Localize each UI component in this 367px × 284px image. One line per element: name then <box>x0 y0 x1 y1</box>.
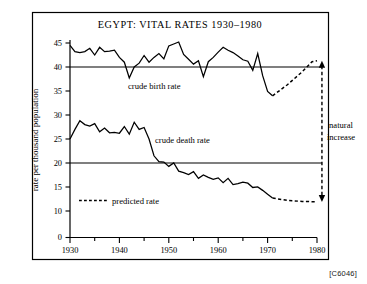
data-curves-group <box>70 42 317 202</box>
vital-rates-line-chart: EGYPT: VITAL RATES 1930–1980 rate per th… <box>0 0 367 284</box>
y-tick-label-10: 10 <box>54 207 62 216</box>
natural-increase-arrowhead-bottom <box>319 195 325 202</box>
natural-increase-marker <box>319 61 325 202</box>
y-tick-label-20: 20 <box>54 159 62 168</box>
predicted-rate-label: predicted rate <box>112 196 159 206</box>
annotations-group: crude birth rate crude death rate predic… <box>79 81 355 206</box>
crude-death-rate-label: crude death rate <box>155 135 210 145</box>
natural-increase-label-line2: increase <box>327 132 355 142</box>
x-tick-label-1950: 1950 <box>160 246 177 255</box>
predicted-death-rate-curve <box>273 198 317 202</box>
predicted-birth-rate-curve <box>273 61 317 96</box>
x-tick-label-1980: 1980 <box>309 246 326 255</box>
natural-increase-label-line1: natural <box>329 120 353 130</box>
x-tick-label-1970: 1970 <box>259 246 276 255</box>
crude-death-rate-curve <box>70 121 273 198</box>
y-tick-label-40: 40 <box>54 63 62 72</box>
y-axis-label: rate per thousand population <box>30 88 40 191</box>
x-tick-label-1960: 1960 <box>210 246 227 255</box>
y-ticks-group: 45 40 35 30 25 20 15 10 0 <box>54 39 70 242</box>
y-tick-label-30: 30 <box>54 111 62 120</box>
crude-birth-rate-label: crude birth rate <box>128 81 181 91</box>
y-tick-label-35: 35 <box>54 87 62 96</box>
figure-container: EGYPT: VITAL RATES 1930–1980 rate per th… <box>0 0 367 284</box>
reference-lines-group <box>70 67 322 163</box>
x-tick-label-1930: 1930 <box>62 246 79 255</box>
figure-code: [C6046] <box>329 269 357 278</box>
x-ticks-group: 1930 1940 1950 1960 1970 1980 <box>62 238 326 256</box>
chart-title: EGYPT: VITAL RATES 1930–1980 <box>98 19 262 30</box>
y-tick-label-15: 15 <box>54 183 62 192</box>
y-tick-label-45: 45 <box>54 39 62 48</box>
y-tick-label-0: 0 <box>58 233 62 242</box>
y-tick-label-25: 25 <box>54 135 62 144</box>
natural-increase-arrowhead-top <box>319 61 325 68</box>
x-tick-label-1940: 1940 <box>111 246 128 255</box>
